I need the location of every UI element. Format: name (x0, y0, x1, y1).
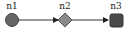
node-n1-label: n1 (6, 1, 18, 11)
node-n1-circle[interactable] (6, 14, 19, 27)
flow-diagram: n1 n2 n3 (0, 0, 129, 35)
node-n3-label: n3 (110, 1, 122, 11)
node-n2-diamond[interactable] (58, 13, 72, 27)
node-n3-square[interactable] (110, 14, 123, 27)
node-n2-label: n2 (59, 1, 71, 11)
